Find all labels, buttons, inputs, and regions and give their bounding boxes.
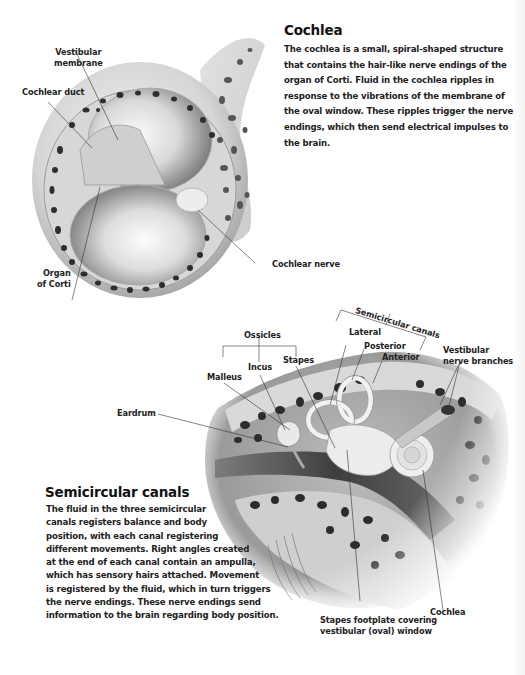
label-ossicles: Ossicles [244,330,281,341]
semicircular-body-line: information to the brain regarding body … [46,609,279,622]
label-vestibular-nerve-branches: Vestibular nerve branches [443,345,513,367]
label-cochlear-duct: Cochlear duct [22,87,84,98]
label-line: Stapes footplate covering [320,615,437,626]
label-anterior: Anterior [382,352,419,363]
cochlea-body-line: the brain. [284,136,513,152]
semicircular-body-line: the nerve endings. These nerve endings s… [46,596,279,609]
cochlea-body-line: The cochlea is a small, spiral-shaped st… [284,42,513,58]
label-posterior: Posterior [364,341,406,352]
cochlea-body-line: organ of Corti. Fluid in the cochlea rip… [284,73,513,89]
cochlea-body-line: that contains the hair-like nerve ending… [284,58,513,74]
label-line: nerve branches [443,356,513,367]
semicircular-body-line: at the end of each canal contain an ampu… [46,556,279,569]
semicircular-body-line: is registered by the fluid, which in tur… [46,583,279,596]
label-line: Vestibular [443,345,513,356]
cochlea-body: The cochlea is a small, spiral-shaped st… [284,42,513,151]
semicircular-body-line: position, with each canal registering [46,530,279,543]
label-stapes: Stapes [283,355,314,366]
semicircular-body-line: different movements. Right angles create… [46,543,279,556]
cochlea-body-line: response to the vibrations of the membra… [284,89,513,105]
semicircular-body-line: The fluid in the three semicircular [46,503,279,516]
page-edge-shadow [513,0,525,675]
cochlea-body-line: endings, which then send electrical impu… [284,120,513,136]
label-line: Vestibular [54,47,103,58]
label-vestibular-membrane: Vestibular membrane [54,47,103,69]
semicircular-body: The fluid in the three semicircular cana… [46,503,279,623]
label-line: membrane [54,58,103,69]
label-cochlear-nerve: Cochlear nerve [272,259,340,270]
semicircular-body-line: which has sensory hairs attached. Moveme… [46,569,279,582]
label-line: of Corti [37,279,71,290]
label-eardrum: Eardrum [117,408,156,419]
label-organ-of-corti: Organ of Corti [37,268,71,290]
cochlea-heading: Cochlea [284,22,342,38]
semicircular-heading: Semicircular canals [45,484,189,500]
label-line: vestibular (oval) window [320,626,437,637]
label-stapes-footplate: Stapes footplate covering vestibular (ov… [320,615,437,637]
label-lateral: Lateral [349,327,381,338]
label-line: Organ [37,268,71,279]
label-malleus: Malleus [207,372,242,383]
semicircular-body-line: canals registers balance and body [46,516,279,529]
cochlea-body-line: the oval window. These ripples trigger t… [284,104,513,120]
label-incus: Incus [248,362,272,373]
label-cochlea: Cochlea [430,607,466,618]
